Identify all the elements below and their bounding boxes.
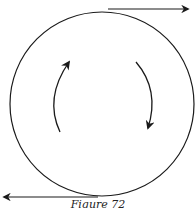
wheel-circle xyxy=(10,12,194,196)
left-rotation-arrow xyxy=(54,62,69,132)
figure-diagram xyxy=(0,0,196,208)
right-rotation-arrow xyxy=(136,62,152,128)
figure-caption: Figure 72 xyxy=(0,199,196,208)
